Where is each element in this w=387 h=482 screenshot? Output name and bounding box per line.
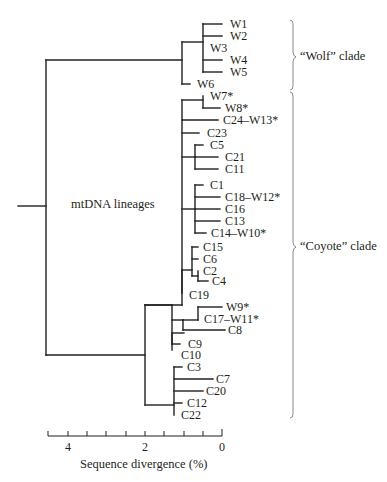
axis-title: Sequence divergence (%) bbox=[80, 457, 207, 472]
wolf-clade-bracket bbox=[290, 20, 296, 90]
leaf-label-c14-w10: C14–W10* bbox=[211, 227, 266, 239]
leaf-label-c20: C20 bbox=[206, 385, 226, 397]
leaf-label-w5: W5 bbox=[230, 66, 247, 78]
leaf-label-c4: C4 bbox=[212, 275, 226, 287]
leaf-label-c8: C8 bbox=[228, 324, 242, 336]
leaf-label-c5: C5 bbox=[210, 139, 224, 151]
leaf-label-c1: C1 bbox=[210, 179, 224, 191]
axis-tick-label-4: 4 bbox=[65, 440, 71, 455]
leaf-label-w3: W3 bbox=[210, 42, 227, 54]
mtdna-lineages-label: mtDNA lineages bbox=[71, 197, 155, 212]
divergence-axis bbox=[48, 429, 222, 436]
leaf-label-c24-w13: C24–W13* bbox=[223, 114, 278, 126]
coyote-clade-bracket bbox=[290, 92, 296, 418]
leaf-label-c22: C22 bbox=[181, 409, 201, 421]
coyote-clade-label: “Coyote” clade bbox=[300, 239, 377, 254]
leaf-label-c19: C19 bbox=[189, 289, 209, 301]
axis-tick-label-2: 2 bbox=[142, 440, 148, 455]
wolf-clade-label: “Wolf” clade bbox=[300, 49, 365, 64]
leaf-label-c3: C3 bbox=[187, 361, 201, 373]
leaf-label-c11: C11 bbox=[225, 163, 245, 175]
axis-tick-label-0: 0 bbox=[219, 440, 225, 455]
leaf-label-w2: W2 bbox=[230, 30, 247, 42]
